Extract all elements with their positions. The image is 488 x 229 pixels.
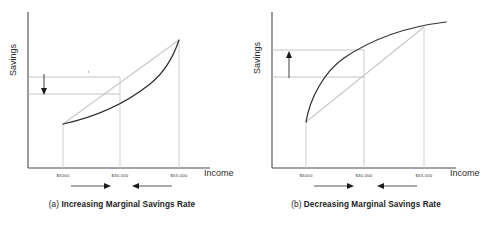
x-tick-label-30000: $30,000: [356, 173, 373, 178]
chord-line: [63, 40, 179, 124]
caption-text: Increasing Marginal Savings Rate: [61, 200, 195, 209]
panel-increasing-marginal-savings-rate: i Savings Income $5000 $30,000 $55,000: [0, 0, 244, 229]
panel-decreasing-marginal-savings-rate: Savings Income $5000 $30,000 $55,000 (b)…: [244, 0, 488, 229]
caption-tag: (a): [49, 200, 59, 209]
caption-tag: (b): [291, 200, 301, 209]
figure-marginal-savings-rate: i Savings Income $5000 $30,000 $55,000: [0, 0, 488, 229]
caption-text: Decreasing Marginal Savings Rate: [304, 200, 441, 209]
x-axis-label: Income: [204, 168, 234, 178]
savings-curve: [306, 22, 446, 122]
x-axis-label: Income: [450, 168, 480, 178]
x-tick-label-55000: $55,000: [171, 173, 188, 178]
y-axis-label: Savings: [252, 41, 262, 74]
y-axis-label: Savings: [8, 43, 18, 76]
panel-caption: (a) Increasing Marginal Savings Rate: [0, 200, 244, 209]
axis-interval-arrow-left: [314, 183, 354, 189]
faint-mark: i: [88, 69, 89, 74]
x-tick-label-5000: $5000: [300, 173, 313, 178]
x-tick-label-55000: $55,000: [416, 173, 433, 178]
chart-decreasing-marginal-savings-rate: Savings Income $5000 $30,000 $55,000: [244, 0, 488, 229]
axis-interval-arrow-left: [71, 183, 111, 189]
axis-interval-arrow-right: [132, 183, 172, 189]
panel-caption: (b) Decreasing Marginal Savings Rate: [244, 200, 488, 209]
axis-interval-arrow-right: [377, 183, 417, 189]
chord-line: [306, 27, 424, 122]
x-tick-label-5000: $5000: [57, 173, 70, 178]
chart-increasing-marginal-savings-rate: i Savings Income $5000 $30,000 $55,000: [0, 0, 244, 229]
gap-arrow-up: [286, 51, 292, 78]
x-tick-label-30000: $30,000: [112, 173, 129, 178]
